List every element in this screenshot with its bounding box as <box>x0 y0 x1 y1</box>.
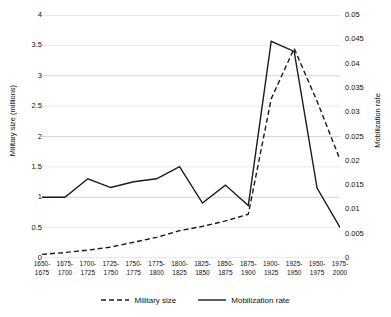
y-axis-left-tick: 2.5 <box>14 102 42 110</box>
plot-svg <box>42 15 340 258</box>
y-axis-left-tick: 3.5 <box>14 41 42 49</box>
legend-swatch-dashed <box>101 296 129 305</box>
y-axis-right-title: Mobilization rate <box>373 76 382 166</box>
chart-legend: Military sizeMobilization rate <box>0 296 391 305</box>
series-line-military-size <box>42 48 340 254</box>
legend-swatch-solid <box>198 296 226 305</box>
plot-area <box>42 15 340 258</box>
y-axis-right-tick: 0.05 <box>345 11 379 19</box>
y-axis-right-tick: 0.04 <box>345 60 379 68</box>
legend-item[interactable]: Military size <box>101 296 176 305</box>
y-axis-left-tick: 1.5 <box>14 163 42 171</box>
series-line-mobilization-rate <box>42 41 340 227</box>
y-axis-left-tick: 2 <box>14 133 42 141</box>
y-axis-left-tick: 1 <box>14 193 42 201</box>
y-axis-right-tick: 0.005 <box>345 230 379 238</box>
legend-label: Mobilization rate <box>231 296 289 305</box>
legend-item[interactable]: Mobilization rate <box>198 296 289 305</box>
y-axis-left-tick: 0.5 <box>14 224 42 232</box>
y-axis-left-tick: 3 <box>14 72 42 80</box>
legend-label: Military size <box>134 296 176 305</box>
x-axis-tick: 1975-2000 <box>325 260 355 277</box>
y-axis-left-tick: 4 <box>14 11 42 19</box>
y-axis-left-title: Military size (millions) <box>8 76 17 166</box>
chart-container: 00.511.522.533.54 00.0050.010.0150.020.0… <box>0 0 391 317</box>
series-lines <box>42 41 340 254</box>
y-axis-right-tick: 0.01 <box>345 205 379 213</box>
y-axis-right-tick: 0.045 <box>345 35 379 43</box>
x-axis: 1650-16751675-17001700-17251725-17501750… <box>42 260 340 282</box>
y-axis-right-tick: 0.015 <box>345 181 379 189</box>
